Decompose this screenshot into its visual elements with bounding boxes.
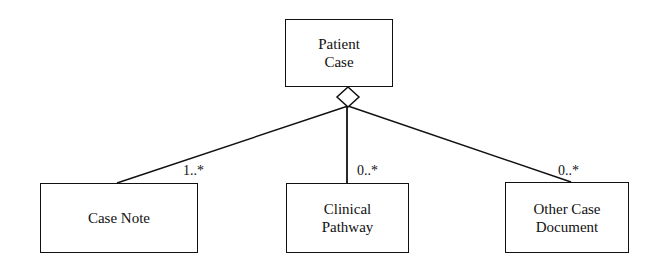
- clinical-pathway-label-line1: Clinical: [322, 200, 374, 218]
- clinical-pathway-label-line2: Pathway: [322, 218, 374, 236]
- aggregation-diamond-icon: [337, 87, 359, 107]
- clinical-pathway-box: Clinical Pathway: [286, 183, 409, 253]
- other-case-document-label-line1: Other Case: [533, 200, 600, 218]
- case-note-box: Case Note: [40, 183, 198, 253]
- aggregation-line-case-note: [117, 106, 348, 183]
- multiplicity-clinical-pathway: 0..*: [357, 163, 378, 179]
- other-case-document-label-line2: Document: [533, 218, 600, 236]
- multiplicity-other-document: 0..*: [558, 163, 579, 179]
- case-note-label: Case Note: [88, 209, 150, 227]
- aggregation-line-other-document: [348, 106, 571, 182]
- patient-case-label-line1: Patient: [318, 35, 360, 53]
- other-case-document-box: Other Case Document: [505, 182, 629, 253]
- patient-case-label-line2: Case: [318, 53, 360, 71]
- multiplicity-case-note: 1..*: [183, 163, 204, 179]
- patient-case-box: Patient Case: [285, 19, 393, 87]
